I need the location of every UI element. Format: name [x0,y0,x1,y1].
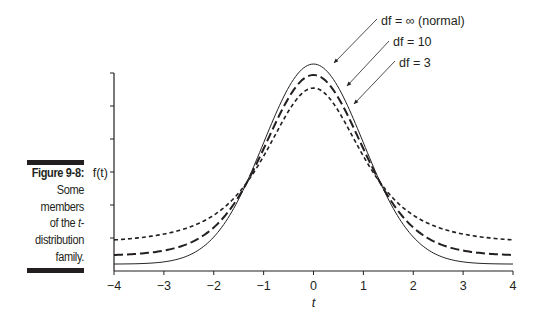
curve-df-10 [114,75,513,255]
annotation-arrow [347,41,389,86]
x-tick-label: 2 [410,279,417,293]
t-distribution-chart: −4−3−2−101234tf(t) df = ∞ (normal)df = 1… [0,0,541,325]
x-tick-label: −4 [107,279,121,293]
annotation-arrow [334,19,377,63]
curve-df-3 [114,88,513,240]
x-axis-label: t [312,295,317,310]
annotation-arrow [354,61,395,104]
x-tick-label: 4 [510,279,517,293]
x-tick-label: 3 [460,279,467,293]
x-tick-label: 1 [360,279,367,293]
x-tick-label: −3 [157,279,171,293]
x-tick-label: −2 [207,279,221,293]
annotation-label: df = 3 [399,56,431,70]
curves [114,64,513,264]
axes: −4−3−2−101234tf(t) [93,73,517,310]
annotation-label: df = 10 [393,35,432,49]
y-axis-label: f(t) [93,166,108,180]
annotations: df = ∞ (normal)df = 10df = 3 [334,14,465,104]
annotation-label: df = ∞ (normal) [381,14,465,28]
x-tick-label: −1 [256,279,270,293]
curve-df-inf [114,64,513,264]
x-tick-label: 0 [310,279,317,293]
